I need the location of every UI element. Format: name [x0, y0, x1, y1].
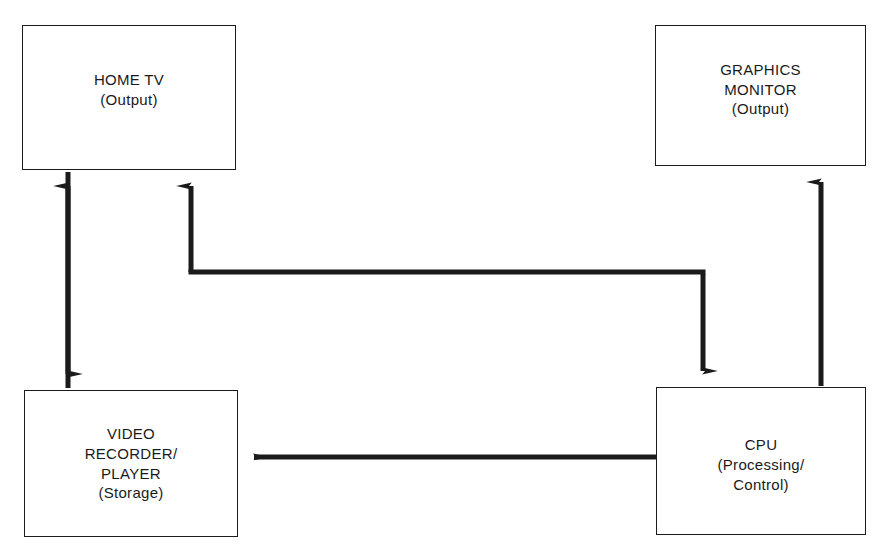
edge-cpu-tv — [189, 186, 706, 371]
node-home-tv-title: HOME TV — [94, 70, 164, 90]
node-video-recorder-role: (Storage) — [85, 483, 178, 503]
block-diagram: HOME TV (Output) GRAPHICS MONITOR (Outpu… — [0, 0, 888, 559]
node-graphics-monitor[interactable]: GRAPHICS MONITOR (Output) — [655, 25, 866, 166]
node-graphics-monitor-title-line1: GRAPHICS — [720, 60, 801, 80]
node-cpu-role-line1: (Processing/ — [718, 455, 805, 475]
node-home-tv-role: (Output) — [94, 90, 164, 110]
node-video-recorder-title-line3: PLAYER — [85, 464, 178, 484]
node-graphics-monitor-title-line2: MONITOR — [720, 80, 801, 100]
node-cpu-title: CPU — [718, 435, 805, 455]
node-graphics-monitor-labels: GRAPHICS MONITOR (Output) — [720, 60, 801, 119]
node-video-recorder-title-line2: RECORDER/ — [85, 444, 178, 464]
node-home-tv[interactable]: HOME TV (Output) — [22, 25, 236, 170]
node-video-recorder[interactable]: VIDEO RECORDER/ PLAYER (Storage) — [24, 390, 238, 537]
node-cpu-labels: CPU (Processing/ Control) — [718, 435, 805, 494]
node-graphics-monitor-role: (Output) — [720, 99, 801, 119]
node-video-recorder-title-line1: VIDEO — [85, 424, 178, 444]
node-cpu-role-line2: Control) — [718, 475, 805, 495]
node-cpu[interactable]: CPU (Processing/ Control) — [656, 387, 866, 535]
node-home-tv-labels: HOME TV (Output) — [94, 70, 164, 110]
node-video-recorder-labels: VIDEO RECORDER/ PLAYER (Storage) — [85, 424, 178, 503]
